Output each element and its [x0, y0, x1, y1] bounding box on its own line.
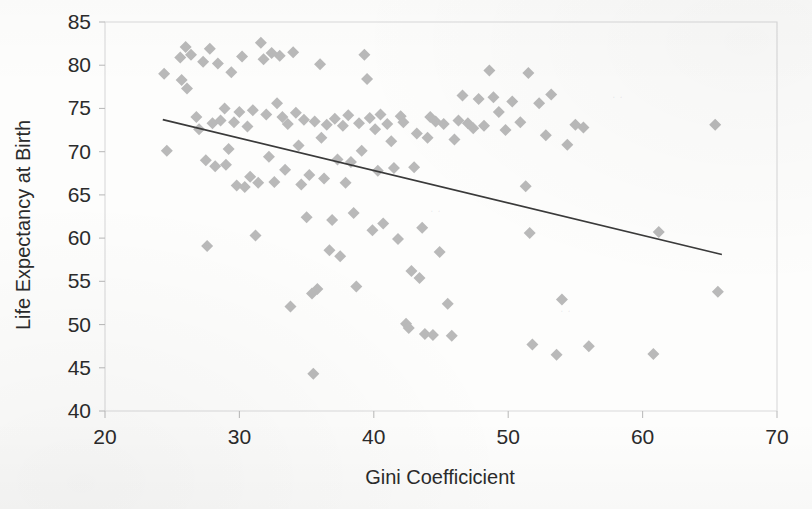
scatter-point: [348, 207, 360, 219]
scatter-point: [279, 164, 291, 176]
scatter-point: [225, 66, 237, 78]
y-tick-label: 85: [68, 10, 91, 33]
scatter-point: [260, 108, 272, 120]
scatter-point: [263, 151, 275, 163]
scatter-point: [307, 368, 319, 380]
scatter-point: [303, 169, 315, 181]
scatter-point: [197, 56, 209, 68]
scatter-point: [405, 265, 417, 277]
scatter-point: [358, 49, 370, 61]
scatter-point: [219, 102, 231, 114]
scatter-point: [493, 106, 505, 118]
scatter-point: [422, 132, 434, 144]
scatter-point: [434, 246, 446, 258]
y-tick-label: 50: [68, 313, 91, 336]
scatter-point: [356, 145, 368, 157]
scatter-point: [315, 132, 327, 144]
scatter-point: [342, 109, 354, 121]
scatter-point: [318, 172, 330, 184]
scatter-point: [551, 349, 563, 361]
scatter-point: [448, 134, 460, 146]
scatter-point: [473, 93, 485, 105]
scatter-point: [483, 64, 495, 76]
x-axis-tick-labels: 203040506070: [93, 425, 788, 448]
scatter-point: [158, 68, 170, 80]
scatter-point: [381, 118, 393, 130]
scatter-point: [212, 57, 224, 69]
scatter-point: [522, 67, 534, 79]
scatter-chart-figure: 40455055606570758085 203040506070 Gini C…: [0, 0, 812, 509]
scatter-point: [204, 43, 216, 55]
scatter-point: [236, 51, 248, 63]
scatter-point: [209, 160, 221, 172]
scatter-point: [561, 139, 573, 151]
scatter-point: [524, 227, 536, 239]
scatter-point: [385, 135, 397, 147]
x-tick-label: 30: [228, 425, 251, 448]
scatter-point: [411, 128, 423, 140]
scatter-point: [268, 176, 280, 188]
scatter-point: [353, 117, 365, 129]
scatter-point: [487, 91, 499, 103]
y-tick-label: 55: [68, 269, 91, 292]
scatter-point: [375, 108, 387, 120]
scatter-point: [174, 51, 186, 63]
scatter-point: [271, 97, 283, 109]
chart-canvas: 40455055606570758085 203040506070 Gini C…: [0, 0, 812, 509]
scatter-point: [647, 348, 659, 360]
scatter-point: [223, 143, 235, 155]
scatter-point: [250, 230, 262, 242]
scatter-point: [533, 97, 545, 109]
scatter-point: [457, 89, 469, 101]
scatter-point: [161, 145, 173, 157]
y-axis-tick-labels: 40455055606570758085: [68, 10, 91, 422]
y-tick-label: 70: [68, 140, 91, 163]
scatter-point: [583, 340, 595, 352]
scatter-point: [326, 214, 338, 226]
x-tick-label: 20: [93, 425, 116, 448]
scatter-point-group: [158, 37, 724, 380]
scatter-point: [545, 89, 557, 101]
y-axis-title: Life Expectancy at Birth: [12, 120, 34, 330]
scatter-point: [712, 286, 724, 298]
scatter-point: [201, 240, 213, 252]
y-tick-label: 45: [68, 356, 91, 379]
scatter-point: [241, 121, 253, 133]
scatter-point: [239, 181, 251, 193]
scatter-point: [653, 226, 665, 238]
x-tick-label: 60: [631, 425, 654, 448]
scatter-point: [323, 244, 335, 256]
scatter-point: [556, 293, 568, 305]
scatter-point: [190, 111, 202, 123]
scatter-point: [442, 298, 454, 310]
scatter-point: [295, 179, 307, 191]
y-tick-label: 80: [68, 53, 91, 76]
y-tick-label: 60: [68, 226, 91, 249]
plot-frame: [105, 22, 777, 411]
scatter-point: [388, 162, 400, 174]
scatter-point: [366, 224, 378, 236]
y-tick-label: 75: [68, 96, 91, 119]
x-tick-label: 70: [765, 425, 788, 448]
scatter-point: [337, 120, 349, 132]
scatter-point: [364, 112, 376, 124]
scatter-point: [413, 272, 425, 284]
scatter-point: [287, 46, 299, 58]
scatter-point: [520, 180, 532, 192]
scatter-point: [540, 129, 552, 141]
scatter-point: [369, 123, 381, 135]
scatter-point: [500, 124, 512, 136]
scatter-point: [247, 104, 259, 116]
y-tick-label: 65: [68, 183, 91, 206]
axis-tick-marks: [99, 22, 777, 418]
scatter-point: [392, 233, 404, 245]
scatter-point: [298, 114, 310, 126]
y-tick-label: 40: [68, 399, 91, 422]
scatter-point: [361, 73, 373, 85]
scatter-point: [220, 159, 232, 171]
scatter-point: [290, 107, 302, 119]
scatter-point: [255, 37, 267, 49]
scatter-point: [228, 116, 240, 128]
scatter-point: [526, 338, 538, 350]
x-tick-label: 50: [497, 425, 520, 448]
